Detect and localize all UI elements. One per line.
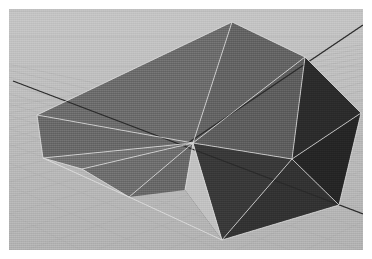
viewport-window [0,0,372,259]
render-viewport[interactable] [9,9,363,250]
scene-canvas[interactable] [9,9,363,250]
